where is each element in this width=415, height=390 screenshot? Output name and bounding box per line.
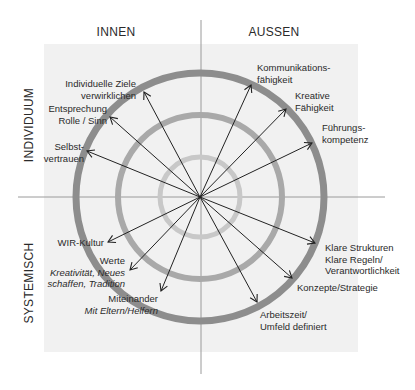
- label-line: schaffen, Tradition: [48, 278, 125, 289]
- label-line: Verantwortlichkeit: [325, 265, 400, 276]
- diagram-canvas: Individuelle ZieleverwirklichenEntsprech…: [0, 0, 415, 390]
- label-line: Führungs-: [322, 122, 365, 133]
- label-konzepte: Konzepte/Strategie: [297, 282, 378, 293]
- label-line: Klare Strukturen: [325, 242, 394, 253]
- header-innen: INNEN: [97, 25, 136, 39]
- header-aussen: AUSSEN: [248, 25, 299, 39]
- label-line: Arbeitszeit/: [260, 309, 307, 320]
- label-line: Selbst-: [54, 141, 84, 152]
- label-line: Umfeld definiert: [260, 321, 327, 332]
- label-line: verwirklichen: [81, 90, 136, 101]
- label-line: Werte: [100, 255, 125, 266]
- label-line: vertrauen: [44, 153, 84, 164]
- label-line: Mit Eltern/Helfern: [85, 305, 158, 316]
- label-line: Kreative: [295, 90, 330, 101]
- label-line: kompetenz: [322, 134, 369, 145]
- label-line: Rolle / Sinn: [58, 115, 107, 126]
- label-line: Kreativität, Neues: [50, 267, 125, 278]
- label-line: Fähigkeit: [295, 102, 334, 113]
- label-line: fähigkeit: [257, 74, 293, 85]
- label-wir-kultur: WIR-Kultur: [58, 237, 104, 248]
- label-line: Konzepte/Strategie: [297, 282, 378, 293]
- header-systemisch: SYSTEMISCH: [22, 242, 36, 323]
- label-kreative: KreativeFähigkeit: [295, 90, 334, 113]
- label-line: Individuelle Ziele: [65, 78, 136, 89]
- label-line: Entsprechung: [48, 103, 107, 114]
- label-line: Kommunikations-: [257, 62, 330, 73]
- label-line: Klare Regeln/: [325, 254, 383, 265]
- label-line: WIR-Kultur: [58, 237, 104, 248]
- label-fuehrung: Führungs-kompetenz: [322, 122, 369, 145]
- header-individuum: INDIVIDUUM: [22, 88, 36, 162]
- label-line: Miteinander: [108, 293, 158, 304]
- label-klare-strukturen: Klare StrukturenKlare Regeln/Verantwortl…: [325, 242, 400, 276]
